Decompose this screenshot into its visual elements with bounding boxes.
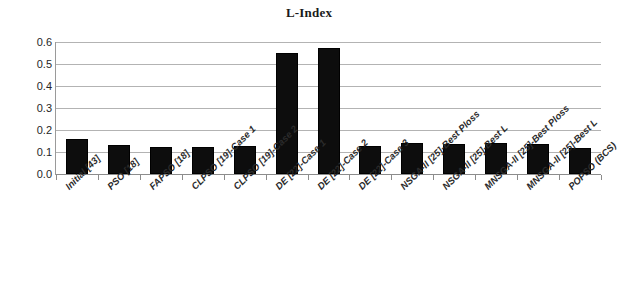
x-tick-label: MNSGA-II [25]-Best L (524, 116, 599, 191)
x-tick-label: MNSGA-II [25]-Best Ploss (482, 103, 571, 192)
x-tick-label: PSO [18] (105, 156, 141, 192)
x-tick-label: Initial [43] (63, 153, 102, 192)
chart-container: L-Index 0.00.10.20.30.40.50.6 Initial [4… (0, 0, 618, 299)
x-axis-labels: Initial [43]PSO [18]FAPSO [18]CLPSO [19]… (0, 0, 618, 299)
x-tick-label: FAPSO [18] (147, 147, 191, 191)
x-tick-label: NSGA-II [25]-Best Ploss (398, 108, 482, 192)
